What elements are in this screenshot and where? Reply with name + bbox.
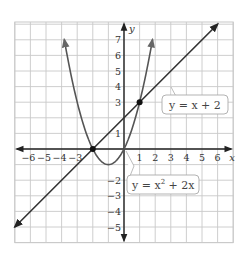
parabola-eq-rest: + 2x (165, 179, 195, 192)
x-tick-label: −6 (21, 152, 35, 163)
line-equation-label: y = x + 2 (168, 99, 221, 112)
y-tick-label: −3 (107, 190, 121, 201)
y-tick-label: 3 (115, 97, 121, 108)
x-axis-label: x (229, 152, 235, 163)
intersection-point (137, 99, 143, 105)
y-tick-label: 6 (115, 50, 121, 61)
y-tick-label: 5 (115, 66, 121, 77)
y-tick-label: −5 (107, 222, 121, 233)
y-tick-label: −2 (107, 175, 121, 186)
y-tick-label: 4 (115, 81, 121, 92)
y-tick-label: 7 (115, 34, 121, 45)
graph: −6−5−4−3123456765431−2−3−4−5xy y = x + 2… (0, 0, 250, 259)
y-axis-label: y (128, 23, 135, 34)
intersection-point (90, 146, 96, 152)
x-tick-label: −4 (53, 152, 67, 163)
parabola-eq-y: y = x (131, 179, 161, 192)
x-tick-label: 6 (215, 152, 221, 163)
y-tick-label: 1 (115, 128, 121, 139)
x-tick-label: −5 (37, 152, 51, 163)
y-tick-label: −4 (107, 206, 121, 217)
x-tick-label: 3 (168, 152, 174, 163)
x-tick-label: 1 (137, 152, 143, 163)
x-tick-label: 5 (199, 152, 205, 163)
x-tick-label: 2 (152, 152, 158, 163)
x-tick-label: 4 (183, 152, 189, 163)
